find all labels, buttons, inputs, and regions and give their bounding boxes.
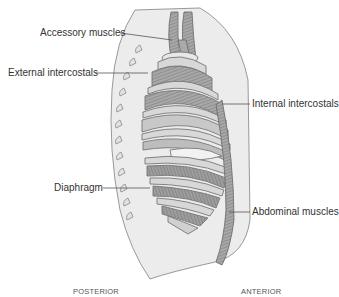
label-anterior: ANTERIOR (241, 287, 281, 296)
label-abdominal-muscles: Abdominal muscles (252, 206, 339, 218)
label-accessory-muscles: Accessory muscles (40, 27, 126, 39)
label-internal-intercostals: Internal intercostals (252, 98, 339, 110)
label-external-intercostals: External intercostals (8, 67, 98, 79)
label-posterior: POSTERIOR (73, 287, 119, 296)
label-diaphragm: Diaphragm (54, 182, 103, 194)
respiratory-muscles-diagram: Accessory muscles External intercostals … (0, 0, 339, 297)
torso-illustration (0, 0, 339, 297)
